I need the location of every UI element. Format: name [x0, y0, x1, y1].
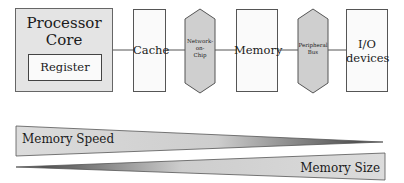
- memory-label: Memory: [234, 44, 280, 57]
- io-label-line2: devices: [346, 51, 388, 65]
- peripheral-label-line1: Peripheral: [295, 42, 331, 49]
- noc-label-line1: Network-: [183, 38, 217, 45]
- noc-label-line2: on-: [183, 45, 217, 52]
- processor-title-line2: Core: [15, 32, 113, 49]
- register-label: Register: [28, 61, 102, 74]
- memory-speed-label: Memory Speed: [22, 133, 114, 146]
- processor-title-line1: Processor: [15, 15, 113, 32]
- peripheral-bus-label: Peripheral Bus: [295, 42, 331, 56]
- memory-size-label: Memory Size: [300, 162, 380, 175]
- peripheral-label-line2: Bus: [295, 49, 331, 56]
- noc-label: Network- on- Chip: [183, 38, 217, 59]
- io-devices-label: I/O devices: [346, 37, 388, 66]
- io-label-line1: I/O: [346, 37, 388, 51]
- processor-core-title: Processor Core: [15, 15, 113, 48]
- cache-label: Cache: [133, 44, 167, 57]
- noc-label-line3: Chip: [183, 52, 217, 59]
